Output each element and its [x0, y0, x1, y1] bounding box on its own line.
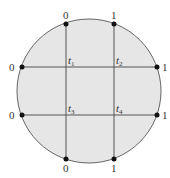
endpoint-dot — [112, 157, 117, 162]
right-label-top: 1 — [162, 61, 168, 73]
top-label-left: 0 — [63, 9, 69, 21]
right-label-bottom: 1 — [162, 109, 168, 121]
endpoint-dot — [64, 22, 69, 27]
bottom-label-right: 1 — [111, 162, 117, 174]
disk — [17, 19, 161, 163]
left-label-bottom: 0 — [9, 109, 15, 121]
endpoint-dot — [155, 113, 160, 118]
left-label-top: 0 — [9, 61, 15, 73]
endpoint-dot — [20, 113, 25, 118]
endpoint-dot — [112, 22, 117, 27]
chord-diagram: 0 1 0 1 0 0 1 1 t1 t2 t3 t4 — [0, 0, 170, 178]
endpoint-dot — [20, 65, 25, 70]
endpoint-dot — [155, 65, 160, 70]
bottom-label-left: 0 — [63, 162, 69, 174]
endpoint-dot — [64, 157, 69, 162]
top-label-right: 1 — [111, 9, 117, 21]
